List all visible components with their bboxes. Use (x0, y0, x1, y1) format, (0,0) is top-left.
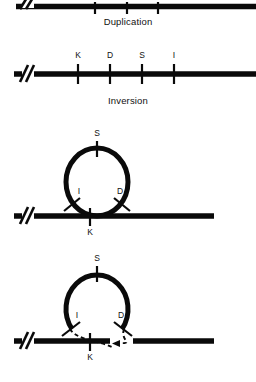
strand-arrowhead-left (112, 340, 120, 347)
label-inversion-D: D (103, 50, 117, 60)
label-inversion-K: K (71, 50, 85, 60)
inversion-loop-closed (66, 148, 128, 216)
panel-inversion-chromosome (14, 64, 256, 84)
label-crossover-K: K (83, 352, 97, 362)
label-loop-S: S (90, 128, 104, 138)
break-mark-loop (14, 206, 34, 226)
label-loop-D: D (113, 186, 127, 196)
break-mark-top (16, 0, 34, 9)
panel-loop-closed (14, 141, 214, 226)
break-mark-crossover (14, 331, 34, 351)
panel-duplicated-chromosome (16, 0, 256, 14)
break-mark-inversion (14, 64, 34, 84)
recombination-figure (0, 0, 256, 382)
caption-inversion: Inversion (0, 95, 256, 106)
label-crossover-D: D (114, 310, 128, 320)
panel-loop-crossover (14, 266, 214, 351)
label-crossover-S: S (90, 253, 104, 263)
label-crossover-I: I (70, 310, 84, 320)
caption-duplication: Duplication (0, 16, 256, 27)
label-loop-K: K (83, 227, 97, 237)
label-inversion-I: I (167, 50, 181, 60)
inversion-loop-open (66, 275, 128, 329)
label-inversion-S: S (135, 50, 149, 60)
label-loop-I: I (72, 186, 86, 196)
